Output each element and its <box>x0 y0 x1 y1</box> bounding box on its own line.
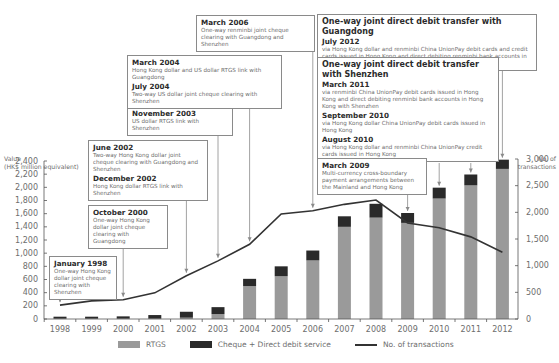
bar-cheque <box>85 317 98 319</box>
annotation-heading: One-way joint direct debit transfer with… <box>322 60 494 80</box>
bar-cheque <box>180 312 193 318</box>
annotation-text: Hong Kong dollar and US dollar RTGS link… <box>132 67 277 81</box>
right-tick-label: 1,500 <box>526 235 549 244</box>
x-tick-label: 2003 <box>208 325 228 334</box>
bar-rtgs <box>338 227 351 319</box>
left-axis-title-line1: Value <box>4 155 79 163</box>
right-tick-label: 500 <box>526 288 541 297</box>
bar-cheque <box>306 251 319 261</box>
annotation-oct-2000: October 2000 One-way Hong Kong dollar jo… <box>88 205 168 249</box>
annotation-date: January 1998 <box>54 259 112 268</box>
bar-cheque <box>212 307 225 314</box>
x-tick-label: 2012 <box>492 325 512 334</box>
annotation-text: One-way renminbi joint cheque clearing w… <box>201 27 310 48</box>
x-tick-label: 1999 <box>81 325 101 334</box>
legend-label: Cheque + Direct debit service <box>218 340 331 349</box>
annotation-date: March 2006 <box>201 18 310 27</box>
arrowhead-icon <box>248 237 252 241</box>
arrowhead-icon <box>406 207 410 211</box>
arrowhead-icon <box>469 168 473 172</box>
x-tick-label: 2001 <box>145 325 165 334</box>
right-axis-title-line2: transactions <box>512 163 556 171</box>
annotation-date: June 2002 <box>93 143 203 152</box>
x-tick-label: 2009 <box>397 325 417 334</box>
bar-rtgs <box>243 286 256 319</box>
left-tick-label: 1,000 <box>15 249 38 258</box>
arrowhead-icon <box>184 269 188 273</box>
x-tick-label: 1998 <box>50 325 70 334</box>
arrowhead-icon <box>216 254 220 258</box>
bar-rtgs <box>306 260 319 319</box>
left-tick-label: 1,600 <box>15 209 38 218</box>
bar-cheque <box>275 266 288 276</box>
annotation-date: September 2010 <box>322 111 494 120</box>
annotation-text: One-way Hong Kong dollar joint cheque cl… <box>54 268 112 296</box>
left-tick-label: 2,000 <box>15 183 38 192</box>
annotation-date: March 2011 <box>322 80 494 89</box>
x-tick-label: 2002 <box>176 325 196 334</box>
arrowhead-icon <box>121 293 125 297</box>
bar-cheque <box>433 188 446 199</box>
left-tick-label: 0 <box>33 315 38 324</box>
annotation-mar-2009: March 2009 Multi-currency cross-boundary… <box>317 158 427 195</box>
bar-cheque <box>117 316 130 318</box>
annotation-date: December 2002 <box>93 174 203 183</box>
legend-label: No. of transactions <box>383 340 454 349</box>
left-tick-label: 600 <box>23 275 38 284</box>
annotation-text: One-way Hong Kong dollar joint cheque cl… <box>93 217 163 245</box>
annotation-text: Two-way US dollar joint cheque clearing … <box>132 91 277 105</box>
legend-item-cheque: Cheque + Direct debit service <box>190 340 331 349</box>
left-tick-label: 1,800 <box>15 196 38 205</box>
annotation-text: via Hong Kong dollar China UnionPay debi… <box>322 120 494 134</box>
right-axis-title: No. of transactions <box>512 155 556 171</box>
annotation-text: via Hong Kong dollar and renminbi China … <box>322 144 494 158</box>
x-tick-label: 2006 <box>303 325 323 334</box>
legend-swatch-rtgs <box>118 341 140 348</box>
annotation-nov-2003: November 2003 US dollar RTGS link with S… <box>127 106 233 136</box>
annotation-date: August 2010 <box>322 135 494 144</box>
bar-rtgs <box>433 199 446 319</box>
x-tick-label: 2011 <box>461 325 481 334</box>
x-tick-label: 2000 <box>113 325 133 334</box>
right-axis-title-line1: No. of <box>512 155 556 163</box>
bar-cheque <box>338 216 351 227</box>
legend-label: RTGS <box>146 340 166 349</box>
annotation-text: Hong Kong dollar RTGS link with Shenzhen <box>93 183 203 197</box>
bar-cheque <box>464 174 477 185</box>
x-tick-label: 2005 <box>271 325 291 334</box>
annotation-jan-1998: January 1998 One-way Hong Kong dollar jo… <box>49 256 117 300</box>
x-tick-label: 2008 <box>366 325 386 334</box>
left-tick-label: 2,200 <box>15 170 38 179</box>
right-tick-label: 2,500 <box>526 181 549 190</box>
annotation-jun-dec-2002: June 2002 Two-way Hong Kong dollar joint… <box>88 140 208 201</box>
x-tick-label: 2007 <box>334 325 354 334</box>
bar-rtgs <box>212 314 225 319</box>
annotation-date: October 2000 <box>93 208 163 217</box>
arrowhead-icon <box>437 182 441 186</box>
right-tick-label: 1,000 <box>526 261 549 270</box>
x-tick-label: 2010 <box>429 325 449 334</box>
annotation-mar-jul-2004: March 2004 Hong Kong dollar and US dolla… <box>127 55 282 109</box>
bar-cheque <box>54 317 67 319</box>
legend-swatch-line <box>355 344 377 346</box>
annotation-mar-2006: March 2006 One-way renminbi joint cheque… <box>196 15 315 52</box>
annotation-date: March 2009 <box>322 161 422 170</box>
annotation-heading: One-way joint direct debit transfer with… <box>322 17 532 37</box>
chart-legend: RTGS Cheque + Direct debit service No. o… <box>118 340 478 349</box>
bar-rtgs <box>496 169 509 319</box>
bar-cheque <box>401 213 414 223</box>
annotation-text: Multi-currency cross-boundary payment ar… <box>322 170 422 191</box>
bar-rtgs <box>464 185 477 319</box>
arrowhead-icon <box>311 204 315 208</box>
legend-swatch-cheque <box>190 341 212 348</box>
legend-item-transactions: No. of transactions <box>355 340 454 349</box>
x-tick-label: 2004 <box>239 325 259 334</box>
annotation-date: July 2004 <box>132 82 277 91</box>
annotation-text: Two-way Hong Kong dollar joint cheque cl… <box>93 152 203 173</box>
annotation-text: via renminbi China UnionPay debit cards … <box>322 89 494 110</box>
left-tick-label: 1,400 <box>15 222 38 231</box>
bar-rtgs <box>401 223 414 319</box>
annotation-shenzhen-direct-debit: One-way joint direct debit transfer with… <box>317 57 499 162</box>
bar-cheque <box>148 315 161 319</box>
left-tick-label: 800 <box>23 262 38 271</box>
